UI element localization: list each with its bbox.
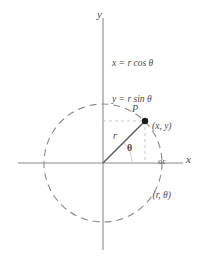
figure-canvas <box>0 0 208 264</box>
radius-label: r <box>113 131 117 142</box>
rect-coordinates-label: (x, y) <box>152 121 172 133</box>
angle-theta-label: θ <box>127 143 132 154</box>
point-coordinates-block: (x, y) or (r, θ) <box>152 98 172 225</box>
equation-y: y = r sin θ <box>112 93 153 105</box>
polar-coordinates-figure: y x P r θ x = r cos θ y = r sin θ (x, y)… <box>0 0 208 264</box>
coordinates-or-label: or <box>152 156 172 168</box>
y-axis-label: y <box>97 9 102 21</box>
equation-x: x = r cos θ <box>112 57 153 69</box>
equations-block: x = r cos θ y = r sin θ <box>112 33 153 129</box>
x-axis-label: x <box>186 154 191 166</box>
polar-coordinates-label: (r, θ) <box>152 190 172 202</box>
